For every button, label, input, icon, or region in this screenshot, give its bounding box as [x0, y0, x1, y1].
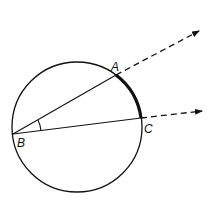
ray-BC-extension: [141, 111, 202, 118]
diagram-svg: A B C: [0, 0, 217, 206]
angle-ABC-mark: [38, 120, 41, 131]
ray-BA-extension: [116, 31, 199, 75]
label-C: C: [144, 122, 153, 136]
chord-BC: [13, 118, 141, 134]
intercepted-arc-AC: [116, 75, 141, 118]
label-A: A: [110, 60, 119, 74]
label-B: B: [17, 136, 25, 150]
diagram-canvas: A B C: [0, 0, 217, 206]
